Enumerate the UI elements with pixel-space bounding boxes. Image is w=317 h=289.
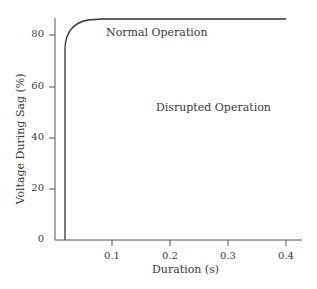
y-tick-label: 0 — [24, 233, 44, 244]
x-axis-title: Duration (s) — [152, 263, 219, 276]
chart-canvas — [0, 0, 317, 289]
tolerance-curve — [65, 19, 286, 240]
normal-operation-label: Normal Operation — [106, 26, 208, 39]
y-tick-label: 80 — [24, 28, 44, 39]
x-tick-label: 0.3 — [213, 250, 243, 261]
disrupted-operation-label: Disrupted Operation — [156, 101, 271, 114]
y-ticks — [49, 35, 55, 189]
y-axis-title: Voltage During Sag (%) — [14, 75, 27, 205]
y-tick-label: 40 — [24, 131, 44, 142]
x-tick-label: 0.1 — [97, 250, 127, 261]
x-tick-label: 0.2 — [155, 250, 185, 261]
x-ticks — [112, 240, 286, 246]
y-tick-label: 60 — [24, 80, 44, 91]
y-tick-label: 20 — [24, 182, 44, 193]
x-tick-label: 0.4 — [271, 250, 301, 261]
